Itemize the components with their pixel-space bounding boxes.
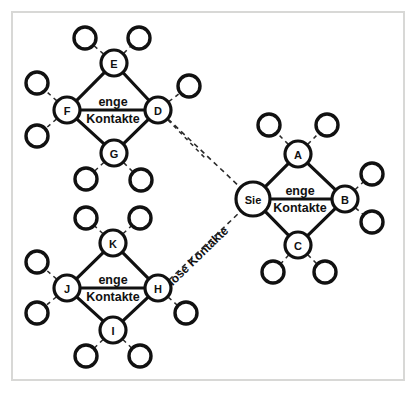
peripheral-node[interactable] bbox=[178, 75, 200, 97]
peripheral-node[interactable] bbox=[361, 163, 383, 185]
peripheral-node[interactable] bbox=[129, 207, 151, 229]
peripheral-node[interactable] bbox=[314, 261, 336, 283]
cluster-label-line1: enge bbox=[98, 273, 127, 287]
person-node-label-sie: Sie bbox=[245, 194, 262, 206]
peripheral-node[interactable] bbox=[128, 27, 150, 49]
person-node-label-d: D bbox=[154, 105, 162, 117]
peripheral-node[interactable] bbox=[258, 114, 280, 136]
peripheral-node[interactable] bbox=[130, 169, 152, 191]
peripheral-node[interactable] bbox=[26, 125, 48, 147]
peripheral-node[interactable] bbox=[175, 302, 197, 324]
cluster-label-line1: enge bbox=[98, 95, 127, 109]
person-node-label-c: C bbox=[294, 240, 302, 252]
person-node-label-f: F bbox=[64, 105, 71, 117]
cluster-label-line1: enge bbox=[285, 184, 314, 198]
peripheral-node[interactable] bbox=[26, 302, 48, 324]
peripheral-node[interactable] bbox=[75, 207, 97, 229]
person-node-label-e: E bbox=[110, 58, 117, 70]
peripheral-node[interactable] bbox=[26, 251, 48, 273]
peripheral-node[interactable] bbox=[75, 345, 97, 367]
peripheral-node[interactable] bbox=[316, 114, 338, 136]
peripheral-node[interactable] bbox=[26, 72, 48, 94]
person-node-label-j: J bbox=[64, 283, 70, 295]
peripheral-node[interactable] bbox=[75, 168, 97, 190]
network-canvas: EFDGengeKontakteSieABCengeKontakteKJHIen… bbox=[0, 0, 416, 394]
peripheral-node[interactable] bbox=[361, 211, 383, 233]
cluster-label-line2: Kontakte bbox=[273, 201, 327, 215]
person-node-label-a: A bbox=[294, 149, 302, 161]
peripheral-node[interactable] bbox=[262, 261, 284, 283]
cluster-label-line2: Kontakte bbox=[86, 112, 140, 126]
person-node-label-i: I bbox=[111, 325, 114, 337]
person-node-label-g: G bbox=[110, 148, 119, 160]
person-node-label-b: B bbox=[341, 194, 349, 206]
cluster-label-line2: Kontakte bbox=[86, 290, 140, 304]
peripheral-node[interactable] bbox=[74, 27, 96, 49]
social-network-diagram: EFDGengeKontakteSieABCengeKontakteKJHIen… bbox=[0, 0, 416, 394]
person-node-label-k: K bbox=[109, 238, 117, 250]
person-node-label-h: H bbox=[154, 283, 162, 295]
peripheral-node[interactable] bbox=[129, 345, 151, 367]
